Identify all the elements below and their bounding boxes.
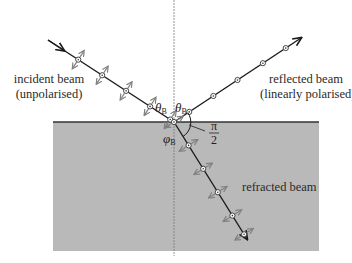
reflected-beam-label-line1: reflected beam [260, 72, 352, 87]
refracted-beam-label-text: refracted beam [242, 180, 317, 194]
reflected-beam-label: reflected beam (linearly polarised) [260, 72, 352, 102]
theta-b-reflected-label: θB [175, 100, 187, 116]
incident-beam-label-line1: incident beam [6, 72, 92, 87]
reflected-beam-label-line2: (linearly polarised) [260, 87, 352, 102]
brewster-diagram: θB θB φB π 2 incident beam (unpolarised)… [0, 0, 352, 263]
theta-b-incident-label: θB [155, 100, 167, 116]
svg-text:2: 2 [211, 133, 217, 147]
incident-beam-label: incident beam (unpolarised) [6, 72, 92, 102]
svg-text:π: π [211, 119, 217, 133]
refracted-beam-label: refracted beam [242, 180, 317, 195]
diagram-canvas: θB θB φB π 2 [0, 0, 352, 263]
incident-beam-label-line2: (unpolarised) [6, 87, 92, 102]
